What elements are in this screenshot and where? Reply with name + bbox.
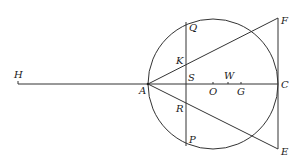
point-a-dot: [147, 83, 150, 86]
label-g: G: [237, 86, 245, 97]
label-h: H: [13, 69, 23, 80]
geometry-diagram: H A Q K S W O G C R P F E: [0, 0, 304, 167]
label-o: O: [209, 86, 217, 97]
label-c: C: [281, 79, 289, 90]
label-f: F: [280, 15, 289, 26]
label-k: K: [175, 55, 184, 66]
label-w: W: [224, 70, 235, 81]
label-a: A: [138, 85, 146, 96]
line-af: [148, 18, 278, 84]
label-r: R: [175, 103, 184, 114]
label-p: P: [188, 134, 196, 145]
label-q: Q: [189, 22, 197, 33]
label-s: S: [188, 72, 195, 83]
label-e: E: [280, 146, 289, 157]
